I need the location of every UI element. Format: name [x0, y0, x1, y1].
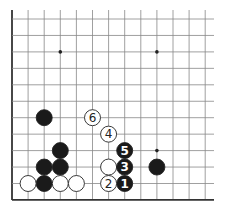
stone-disc: [36, 176, 52, 192]
white-stone-move-6: 6: [85, 110, 101, 126]
star-point: [155, 149, 159, 153]
black-stone-move-1: 1: [117, 176, 133, 192]
stone-disc: [149, 159, 165, 175]
black-stone: [36, 159, 52, 175]
black-stone-move-3: 3: [117, 159, 133, 175]
black-stone: [149, 159, 165, 175]
stone-disc: [20, 176, 36, 192]
white-stone: [68, 176, 84, 192]
stone-disc: [36, 159, 52, 175]
white-stone: [101, 159, 117, 175]
black-stone: [36, 110, 52, 126]
move-number-label: 6: [89, 111, 97, 125]
stone-disc: [101, 159, 117, 175]
black-stone: [52, 159, 68, 175]
white-stone-move-4: 4: [101, 126, 117, 142]
white-stone: [52, 176, 68, 192]
stone-disc: [52, 159, 68, 175]
move-number-label: 2: [105, 177, 113, 191]
move-number-label: 1: [121, 177, 129, 191]
white-stone-move-2: 2: [101, 176, 117, 192]
black-stone: [52, 143, 68, 159]
move-number-label: 4: [105, 127, 113, 141]
star-point: [155, 50, 159, 54]
stone-disc: [68, 176, 84, 192]
stone-disc: [52, 176, 68, 192]
move-number-label: 3: [121, 160, 129, 174]
move-number-label: 5: [121, 144, 129, 158]
star-point: [59, 50, 63, 54]
white-stone: [20, 176, 36, 192]
stone-disc: [52, 143, 68, 159]
go-board-diagram: 123456: [0, 0, 227, 212]
black-stone: [36, 176, 52, 192]
black-stone-move-5: 5: [117, 143, 133, 159]
stone-disc: [36, 110, 52, 126]
